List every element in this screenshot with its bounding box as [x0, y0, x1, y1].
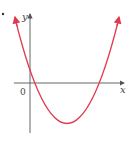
bullet-dot [2, 13, 4, 15]
parabola-curve [16, 22, 118, 124]
origin-label: 0 [20, 87, 26, 97]
x-axis-label: x [120, 84, 126, 95]
parabola-chart: y x 0 [0, 0, 132, 141]
y-axis-label: y [21, 11, 28, 22]
